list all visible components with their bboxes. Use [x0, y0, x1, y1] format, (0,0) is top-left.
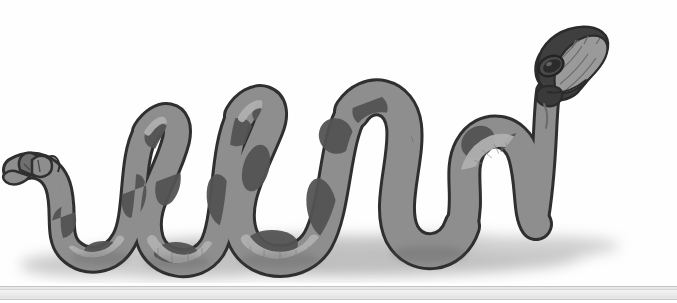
page-root: A large coiled snake with a raised hoode… [0, 0, 677, 303]
scrollbar-track[interactable] [0, 289, 677, 298]
snake-illustration [0, 0, 677, 283]
jaw [537, 86, 563, 106]
head [535, 27, 608, 128]
illustration-canvas: A large coiled snake with a raised hoode… [0, 0, 677, 283]
horizontal-scrollbar[interactable] [0, 286, 677, 300]
